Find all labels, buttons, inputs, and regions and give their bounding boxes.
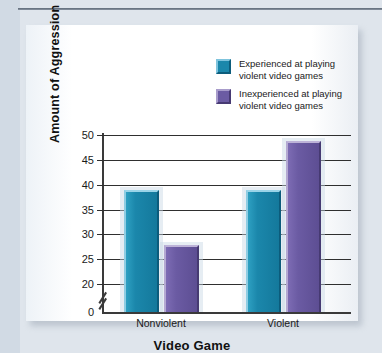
y-tick-label: 25: [82, 253, 94, 265]
y-axis-tick: [97, 160, 102, 161]
bar-nonviolent-experienced[interactable]: [124, 190, 159, 312]
bar-violent-inexperienced[interactable]: [286, 141, 321, 312]
y-tick-label: 40: [82, 179, 94, 191]
chart-legend: Experienced at playing violent video gam…: [216, 58, 342, 118]
legend-label-inexperienced: Inexperienced at playing violent video g…: [239, 88, 342, 111]
y-tick-label: 35: [82, 204, 94, 216]
chart-panel: Experienced at playing violent video gam…: [26, 25, 358, 321]
y-axis-tick: [97, 135, 102, 136]
y-tick-label: 50: [82, 129, 94, 141]
y-axis-tick: [97, 284, 102, 285]
y-axis-tick: [97, 185, 102, 186]
y-tick-label: 30: [82, 228, 94, 240]
legend-swatch-inexperienced-icon: [216, 89, 231, 104]
legend-item-inexperienced[interactable]: Inexperienced at playing violent video g…: [216, 88, 342, 111]
plot-area: 202530354045500: [102, 135, 351, 312]
bar-violent-experienced[interactable]: [246, 190, 281, 312]
y-tick-label: 45: [82, 154, 94, 166]
page-background-left-band: [0, 0, 20, 353]
x-tick-label-nonviolent: Nonviolent: [136, 317, 186, 329]
x-axis-line: [102, 312, 351, 314]
top-rule-divider: [18, 8, 382, 10]
bar-nonviolent-inexperienced[interactable]: [164, 245, 199, 312]
y-axis-break-icon: [96, 292, 110, 308]
x-axis-title: Video Game: [26, 338, 358, 353]
x-tick-label-violent: Violent: [267, 317, 299, 329]
gridline: [102, 135, 351, 136]
legend-swatch-experienced-icon: [216, 59, 231, 74]
y-axis-tick: [97, 234, 102, 235]
legend-item-experienced[interactable]: Experienced at playing violent video gam…: [216, 58, 342, 81]
y-tick-label-zero: 0: [88, 306, 94, 318]
y-tick-label: 20: [82, 278, 94, 290]
legend-label-experienced: Experienced at playing violent video gam…: [239, 58, 335, 81]
y-axis-tick: [97, 210, 102, 211]
y-axis-title: Amount of Aggression: [48, 0, 62, 143]
y-axis-tick: [97, 259, 102, 260]
caption-fragment: [120, 0, 270, 8]
